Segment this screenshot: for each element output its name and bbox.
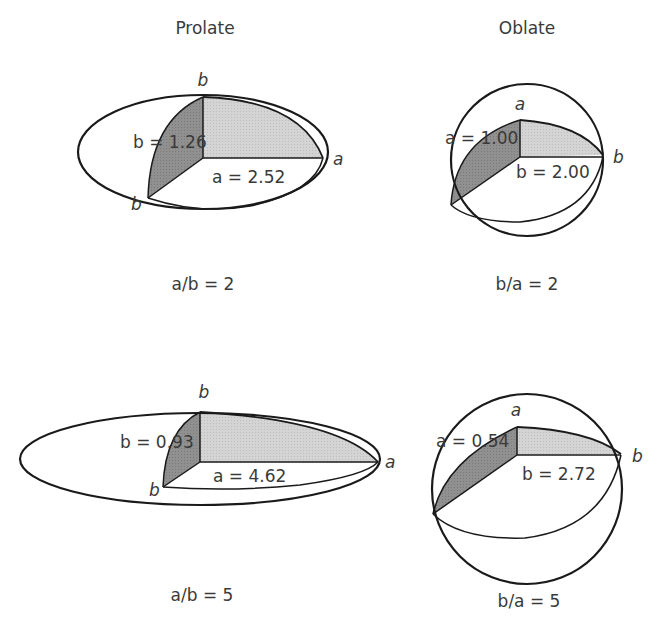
panel-oblate-2: a b a = 1.00 b = 2.00 b/a = 2: [445, 84, 624, 294]
caption: b/a = 2: [496, 274, 559, 294]
axis-label-right: b: [632, 446, 643, 466]
spheroid-diagram: Prolate Oblate b a b b = 1.26 a = 2.52 a…: [0, 0, 662, 630]
axis-label-bottom-left: b: [131, 194, 142, 214]
dim-vertical: a = 0.54: [436, 431, 509, 451]
caption: a/b = 5: [171, 585, 234, 605]
dim-horizontal: b = 2.72: [522, 464, 596, 484]
dim-vertical: b = 0.93: [120, 432, 194, 452]
dim-vertical: b = 1.26: [133, 132, 207, 152]
axis-label-top: a: [511, 400, 521, 420]
axis-label-right: a: [333, 149, 343, 169]
column-title-prolate: Prolate: [175, 18, 234, 38]
axis-label-top: b: [199, 382, 210, 402]
axis-label-top: a: [515, 94, 525, 114]
dim-vertical: a = 1.00: [445, 128, 518, 148]
panel-prolate-5: b a b b = 0.93 a = 4.62 a/b = 5: [20, 382, 395, 605]
caption: a/b = 2: [172, 274, 235, 294]
light-quadrant: [517, 427, 621, 455]
light-quadrant: [520, 120, 603, 157]
axis-label-right: a: [385, 452, 395, 472]
panel-oblate-5: a b a = 0.54 b = 2.72 b/a = 5: [432, 394, 643, 611]
dim-horizontal: a = 2.52: [212, 167, 285, 187]
dim-horizontal: b = 2.00: [516, 162, 590, 182]
axis-label-top: b: [198, 70, 209, 90]
panel-prolate-2: b a b b = 1.26 a = 2.52 a/b = 2: [78, 70, 343, 294]
axis-label-right: b: [613, 147, 624, 167]
column-title-oblate: Oblate: [499, 18, 555, 38]
dim-horizontal: a = 4.62: [213, 466, 286, 486]
axis-label-bottom-left: b: [149, 480, 160, 500]
caption: b/a = 5: [498, 591, 561, 611]
